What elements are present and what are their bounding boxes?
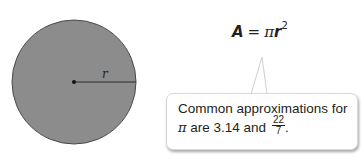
formula-pi: π <box>264 23 274 41</box>
formula-exponent: 2 <box>281 20 287 31</box>
callout-pointer <box>251 57 267 94</box>
callout-line-2: π are 3.14 and 227. <box>178 118 357 139</box>
callout-text: are 3.14 and <box>187 120 270 135</box>
circle-area-diagram: r A=πr2 Common approximations for π are … <box>0 0 361 162</box>
formula-equals: = <box>244 23 265 41</box>
fraction-22-7: 227 <box>272 115 285 136</box>
callout-line-1: Common approximations for <box>178 100 357 118</box>
callout-pi: π <box>178 120 187 135</box>
fraction-denominator: 7 <box>272 126 285 136</box>
area-formula: A=πr2 <box>232 22 288 41</box>
callout-period: . <box>285 120 289 135</box>
formula-area-variable: A <box>232 23 244 41</box>
center-point <box>72 80 76 84</box>
callout-box: Common approximations for π are 3.14 and… <box>166 93 358 150</box>
